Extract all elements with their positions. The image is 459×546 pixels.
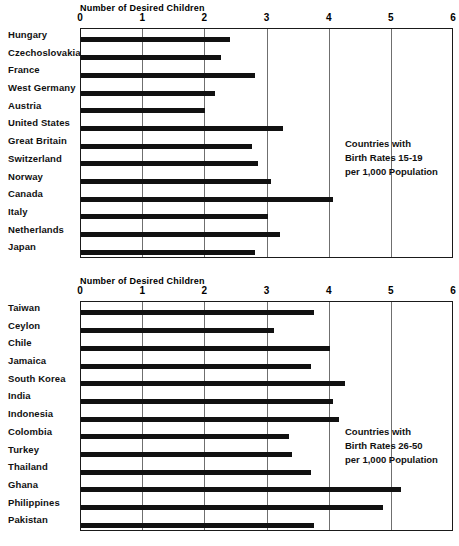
category-label: Philippines	[8, 497, 60, 508]
bar	[81, 434, 289, 439]
annotation-line: Countries with	[345, 137, 438, 151]
bar	[81, 197, 333, 202]
category-label: Taiwan	[8, 302, 40, 313]
x-tick-label: 1	[134, 285, 150, 296]
bar	[81, 381, 345, 386]
annotation-note: Countries withBirth Rates 26-50per 1,000…	[345, 425, 438, 467]
x-tick-label: 3	[259, 285, 275, 296]
x-tick-label: 6	[445, 12, 459, 23]
category-label: Hungary	[8, 29, 47, 40]
bar	[81, 126, 283, 131]
x-tick-label: 5	[383, 12, 399, 23]
category-label: Austria	[8, 100, 41, 111]
category-label: Japan	[8, 241, 36, 252]
category-label: India	[8, 390, 31, 401]
bar	[81, 505, 383, 510]
x-tick-label: 3	[259, 12, 275, 23]
category-label: Colombia	[8, 426, 52, 437]
bar	[81, 73, 255, 78]
chart-page: Number of Desired Children 0123456 Hunga…	[0, 0, 459, 546]
bar	[81, 470, 311, 475]
bar	[81, 523, 314, 528]
bar	[81, 399, 333, 404]
annotation-note: Countries withBirth Rates 15-19per 1,000…	[345, 137, 438, 179]
category-label: Switzerland	[8, 153, 62, 164]
x-tick-label: 2	[196, 12, 212, 23]
gridline	[267, 29, 268, 257]
category-label: South Korea	[8, 373, 66, 384]
x-tick-label: 4	[321, 285, 337, 296]
chart-panel-bottom: Number of Desired Children 0123456 Taiwa…	[0, 273, 459, 546]
category-label: Indonesia	[8, 408, 53, 419]
chart-panel-top: Number of Desired Children 0123456 Hunga…	[0, 0, 459, 273]
bar	[81, 179, 271, 184]
category-label: Thailand	[8, 461, 48, 472]
category-label: France	[8, 64, 40, 75]
annotation-line: Birth Rates 15-19	[345, 151, 438, 165]
category-label: Norway	[8, 171, 43, 182]
x-tick-label: 6	[445, 285, 459, 296]
category-label: Ghana	[8, 479, 38, 490]
plot-area	[80, 301, 453, 531]
bar	[81, 417, 339, 422]
x-tick-label: 4	[321, 12, 337, 23]
bar	[81, 161, 258, 166]
bar	[81, 364, 311, 369]
bar	[81, 232, 280, 237]
bar	[81, 346, 330, 351]
bar	[81, 487, 401, 492]
bar	[81, 328, 274, 333]
annotation-line: per 1,000 Population	[345, 165, 438, 179]
category-label: United States	[8, 117, 70, 128]
x-tick-label: 0	[72, 12, 88, 23]
x-tick-label: 0	[72, 285, 88, 296]
category-label: Canada	[8, 188, 43, 199]
x-tick-label: 2	[196, 285, 212, 296]
bar	[81, 91, 215, 96]
bar	[81, 144, 252, 149]
annotation-line: per 1,000 Population	[345, 453, 438, 467]
bar	[81, 452, 292, 457]
x-tick-label: 5	[383, 285, 399, 296]
bar	[81, 108, 205, 113]
category-label: Turkey	[8, 444, 39, 455]
bar	[81, 55, 221, 60]
gridline	[329, 29, 330, 257]
category-label: Chile	[8, 337, 32, 348]
category-label: Pakistan	[8, 514, 48, 525]
bar	[81, 310, 314, 315]
annotation-line: Countries with	[345, 425, 438, 439]
category-label: Great Britain	[8, 135, 67, 146]
category-label: Netherlands	[8, 224, 64, 235]
category-label: West Germany	[8, 82, 76, 93]
annotation-line: Birth Rates 26-50	[345, 439, 438, 453]
category-label: Ceylon	[8, 320, 40, 331]
x-tick-label: 1	[134, 12, 150, 23]
category-label: Czechoslovakia	[8, 47, 81, 58]
bar	[81, 214, 268, 219]
bar	[81, 37, 230, 42]
category-label: Italy	[8, 206, 28, 217]
gridline	[391, 302, 392, 530]
category-label: Jamaica	[8, 355, 46, 366]
bar	[81, 250, 255, 255]
